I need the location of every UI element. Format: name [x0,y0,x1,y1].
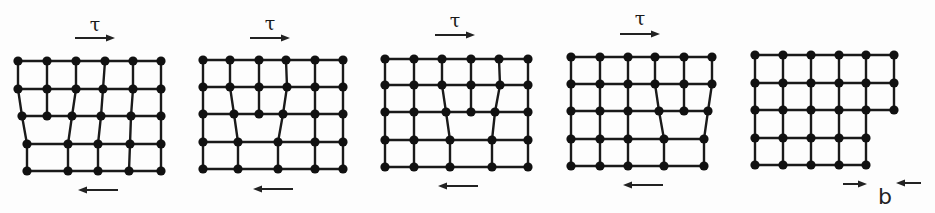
atom-node [198,109,207,118]
step-arrow-left-icon [896,180,921,187]
atom-node [338,82,347,91]
lattice-panel-4: τ [566,7,716,189]
atom-node [445,162,454,171]
atom-node [623,106,632,115]
shear-arrow-bottom-left-icon [438,183,478,190]
atom-node [566,134,575,143]
atom-node [834,105,843,114]
atom-node [889,78,898,87]
atom-node [198,164,207,173]
atom-node [17,111,26,120]
atom-node [156,84,165,93]
atom-node [98,84,107,93]
atom-node [679,52,688,61]
shear-arrow-top-right-icon [75,35,115,42]
atom-node [156,56,165,65]
atom-node [806,78,815,87]
atom-node [778,160,787,169]
atom-node [659,161,668,170]
atom-node [156,111,165,120]
atom-node [523,162,532,171]
atom-node [861,160,870,169]
atom-node [778,133,787,142]
atom-node [380,162,389,171]
atom-node [650,79,659,88]
atom-node [380,135,389,144]
lattice-panel-5: b [750,50,921,209]
atom-node [71,56,80,65]
atom-node [834,78,843,87]
atom-node [198,82,207,91]
atom-node [495,80,504,89]
atom-node [198,137,207,146]
atom-node [310,137,319,146]
shear-arrow-top-right-icon [250,35,290,42]
atom-node [93,166,102,175]
atom-node [409,107,418,116]
atom-node [523,135,532,144]
atom-node [703,106,712,115]
atom-node [595,161,604,170]
shear-stress-label: τ [635,7,646,29]
atom-node [650,52,659,61]
atom-node [156,166,165,175]
atom-node [338,109,347,118]
atom-node [409,54,418,63]
atom-node [834,50,843,59]
atom-node [409,80,418,89]
atom-node [494,54,503,63]
atom-node [156,139,165,148]
atom-node [466,80,475,89]
dislocation-glide-diagram: ττττb Edge dislocation glide through a c… [0,0,935,213]
atom-node [487,162,496,171]
atom-node [523,80,532,89]
lattice-panel-2: τ [198,12,347,193]
atom-node [778,78,787,87]
atom-node [750,133,759,142]
shear-stress-label: τ [450,9,461,31]
atom-node [466,107,475,116]
atom-node [861,50,870,59]
atom-node [409,162,418,171]
atom-node [310,164,319,173]
atom-node [523,107,532,116]
atom-node [699,134,708,143]
atom-node [441,107,450,116]
atom-node [198,55,207,64]
atom-node [273,164,282,173]
lattice-figure: ττττb [0,0,935,213]
atom-node [100,56,109,65]
atom-node [278,109,287,118]
shear-stress-label: τ [265,12,276,34]
atom-node [623,52,632,61]
atom-node [96,111,105,120]
atom-node [654,106,663,115]
atom-node [487,135,496,144]
atom-node [750,160,759,169]
atom-node [13,84,22,93]
atom-node [124,166,133,175]
atom-node [42,84,51,93]
atom-node [128,56,137,65]
atom-node [806,50,815,59]
atom-node [778,50,787,59]
atom-node [861,133,870,142]
shear-stress-label: τ [90,13,101,35]
atom-node [834,133,843,142]
atom-node [889,50,898,59]
atom-node [445,135,454,144]
atom-node [679,79,688,88]
atom-node [380,54,389,63]
atom-node [338,55,347,64]
atom-node [490,107,499,116]
atom-node [699,161,708,170]
atom-node [466,54,475,63]
atom-node [380,80,389,89]
lattice-panel-3: τ [380,9,532,190]
atom-node [437,54,446,63]
shear-arrow-bottom-left-icon [623,182,663,189]
atom-node [861,105,870,114]
atom-node [254,55,263,64]
atom-node [273,137,282,146]
atom-node [566,52,575,61]
